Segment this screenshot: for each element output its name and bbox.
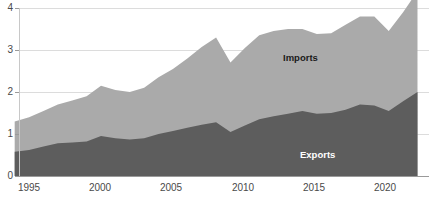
chart-plot-area <box>0 0 429 199</box>
series-label-exports: Exports <box>300 150 335 160</box>
y-tick-label-2: 2 <box>0 87 13 97</box>
x-tick-label-1995: 1995 <box>9 183 49 193</box>
y-tick-label-0: 0 <box>0 171 13 181</box>
y-tick-label-3: 3 <box>0 45 13 55</box>
x-tick-label-2015: 2015 <box>294 183 334 193</box>
stacked-area-chart: 4 3 2 1 0 1995 2000 2005 2010 2015 2020 … <box>0 0 429 199</box>
x-tick-label-2005: 2005 <box>151 183 191 193</box>
x-tick-label-2010: 2010 <box>223 183 263 193</box>
x-tick-label-2020: 2020 <box>365 183 405 193</box>
x-tick-label-2000: 2000 <box>80 183 120 193</box>
y-tick-label-1: 1 <box>0 129 13 139</box>
series-label-imports: Imports <box>283 53 318 63</box>
y-tick-label-4: 4 <box>0 3 13 13</box>
